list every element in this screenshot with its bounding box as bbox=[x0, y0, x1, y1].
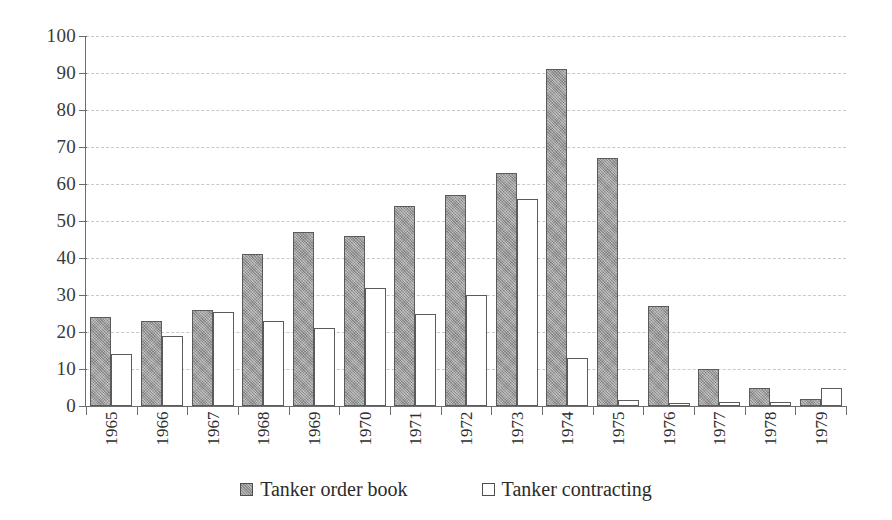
legend-item[interactable]: Tanker contracting bbox=[482, 479, 652, 499]
bar-chart-figure: 0102030405060708090100 19651966196719681… bbox=[0, 0, 892, 520]
x-axis-labels: 1965196619671968196919701971197219731974… bbox=[0, 406, 892, 472]
x-tick-label: 1971 bbox=[407, 399, 424, 459]
x-tick-label: 1977 bbox=[711, 399, 728, 459]
bar-group bbox=[698, 36, 740, 406]
y-tick-label: 90 bbox=[30, 63, 76, 82]
y-tick-mark bbox=[79, 221, 87, 222]
x-tick-label: 1975 bbox=[610, 399, 627, 459]
x-tick-label: 1978 bbox=[762, 399, 779, 459]
y-tick-label: 100 bbox=[30, 26, 76, 45]
bar-group bbox=[496, 36, 538, 406]
bar-group bbox=[344, 36, 386, 406]
bar bbox=[344, 236, 365, 406]
bar bbox=[365, 288, 386, 406]
x-tick-label: 1973 bbox=[508, 399, 525, 459]
bar bbox=[90, 317, 111, 406]
y-tick-mark bbox=[79, 73, 87, 74]
bar bbox=[445, 195, 466, 406]
x-tick-label: 1968 bbox=[255, 399, 272, 459]
chart-legend: Tanker order bookTanker contracting bbox=[0, 474, 892, 504]
bar bbox=[546, 69, 567, 406]
legend-label: Tanker order book bbox=[260, 479, 407, 499]
bar-group bbox=[293, 36, 335, 406]
bar-group bbox=[192, 36, 234, 406]
bar bbox=[192, 310, 213, 406]
y-tick-mark bbox=[79, 110, 87, 111]
bar bbox=[517, 199, 538, 406]
x-tick-label: 1965 bbox=[103, 399, 120, 459]
y-tick-label: 80 bbox=[30, 100, 76, 119]
bar bbox=[242, 254, 263, 406]
bar bbox=[648, 306, 669, 406]
bar-group bbox=[242, 36, 284, 406]
y-tick-mark bbox=[79, 184, 87, 185]
y-tick-mark bbox=[79, 369, 87, 370]
bar bbox=[496, 173, 517, 406]
bar bbox=[162, 336, 183, 406]
y-tick-label: 30 bbox=[30, 285, 76, 304]
y-tick-label: 60 bbox=[30, 174, 76, 193]
x-tick-label: 1969 bbox=[306, 399, 323, 459]
y-tick-mark bbox=[79, 36, 87, 37]
bar bbox=[415, 314, 436, 407]
bar bbox=[597, 158, 618, 406]
legend-swatch-filled-square-icon bbox=[240, 483, 253, 496]
x-tick-label: 1979 bbox=[812, 399, 829, 459]
bar bbox=[466, 295, 487, 406]
bar-group bbox=[141, 36, 183, 406]
x-tick-label: 1967 bbox=[204, 399, 221, 459]
bar-group bbox=[90, 36, 132, 406]
legend-swatch-outlined-square-icon bbox=[482, 483, 495, 496]
y-tick-mark bbox=[79, 332, 87, 333]
x-tick-label: 1970 bbox=[356, 399, 373, 459]
bar bbox=[213, 312, 234, 406]
y-tick-label: 50 bbox=[30, 211, 76, 230]
bar bbox=[394, 206, 415, 406]
legend-item[interactable]: Tanker order book bbox=[240, 479, 407, 499]
y-tick-label: 20 bbox=[30, 322, 76, 341]
bar-group bbox=[648, 36, 690, 406]
bar-group bbox=[749, 36, 791, 406]
y-tick-label: 10 bbox=[30, 359, 76, 378]
y-tick-mark bbox=[79, 147, 87, 148]
y-tick-label: 40 bbox=[30, 248, 76, 267]
x-tick-label: 1966 bbox=[154, 399, 171, 459]
bar-group bbox=[394, 36, 436, 406]
bar-group bbox=[546, 36, 588, 406]
y-tick-mark bbox=[79, 406, 87, 407]
bar bbox=[141, 321, 162, 406]
bar-group bbox=[597, 36, 639, 406]
x-tick-label: 1976 bbox=[660, 399, 677, 459]
bar bbox=[293, 232, 314, 406]
y-tick-label: 70 bbox=[30, 137, 76, 156]
y-tick-mark bbox=[79, 258, 87, 259]
legend-label: Tanker contracting bbox=[502, 479, 652, 499]
bar-group bbox=[800, 36, 842, 406]
bar bbox=[314, 328, 335, 406]
bar-group bbox=[445, 36, 487, 406]
plot-area bbox=[86, 36, 846, 406]
x-tick-label: 1972 bbox=[458, 399, 475, 459]
bar bbox=[263, 321, 284, 406]
x-tick-label: 1974 bbox=[559, 399, 576, 459]
y-tick-mark bbox=[79, 295, 87, 296]
